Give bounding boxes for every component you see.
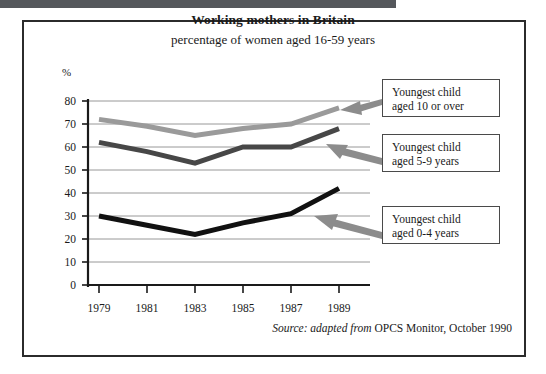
x-tick-label-1981: 1981 — [124, 302, 170, 314]
source-rest: OPCS Monitor, October 1990 — [374, 322, 512, 334]
callout-aged-0-4: Youngest child aged 0-4 years — [382, 206, 500, 244]
x-tick-label-1989: 1989 — [316, 302, 362, 314]
y-tick-label-0: 0 — [52, 280, 76, 291]
callout-line-1: Youngest child — [392, 212, 491, 226]
x-tick-label-1987: 1987 — [268, 302, 314, 314]
chart-subtitle: percentage of women aged 16-59 years — [0, 32, 546, 48]
page-top-bar — [0, 0, 396, 8]
callout-aged-5-9: Youngest child aged 5-9 years — [382, 134, 500, 172]
source-note: Source: adapted from OPCS Monitor, Octob… — [272, 322, 512, 334]
source-prefix: Source: adapted from — [272, 322, 371, 334]
x-tick-label-1985: 1985 — [220, 302, 266, 314]
y-tick-label-80: 80 — [52, 96, 76, 107]
callout-line-2: aged 0-4 years — [392, 226, 491, 240]
chart-title: Working mothers in Britain — [0, 12, 546, 28]
y-tick-label-10: 10 — [52, 257, 76, 268]
x-tick-label-1979: 1979 — [76, 302, 122, 314]
y-axis-unit-label: % — [62, 66, 71, 78]
y-tick-label-20: 20 — [52, 234, 76, 245]
x-tick-label-1983: 1983 — [172, 302, 218, 314]
callout-line-2: aged 10 or over — [392, 99, 491, 113]
y-tick-label-30: 30 — [52, 211, 76, 222]
callout-line-1: Youngest child — [392, 85, 491, 99]
callout-line-2: aged 5-9 years — [392, 154, 491, 168]
y-tick-label-60: 60 — [52, 142, 76, 153]
callout-aged-10-or-over: Youngest child aged 10 or over — [382, 79, 500, 117]
y-tick-label-50: 50 — [52, 165, 76, 176]
y-tick-label-70: 70 — [52, 119, 76, 130]
page-canvas: Working mothers in Britain percentage of… — [0, 0, 546, 374]
callout-line-1: Youngest child — [392, 140, 491, 154]
y-tick-label-40: 40 — [52, 188, 76, 199]
